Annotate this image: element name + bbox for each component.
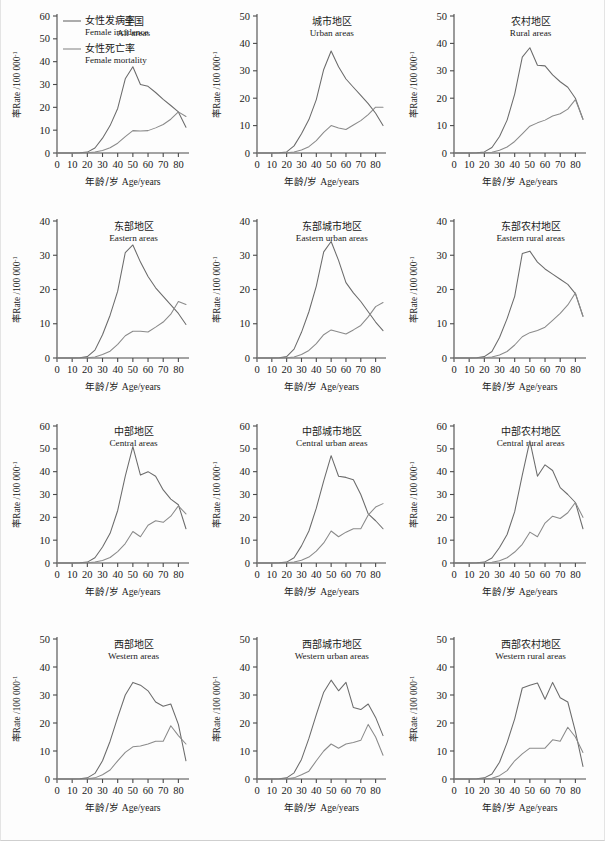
y-tick-label: 0 [45, 558, 50, 569]
series-line-mortality [257, 107, 383, 153]
y-tick-label: 30 [40, 489, 51, 500]
y-axis-title: 率Rate /100 000-1 [11, 51, 22, 118]
x-tick-label: 20 [82, 569, 93, 580]
panel-title-en: Central areas [109, 438, 158, 448]
x-tick-label: 10 [67, 569, 78, 580]
x-tick-label: 0 [54, 159, 59, 170]
y-tick-label: 60 [40, 421, 51, 432]
x-tick-label: 80 [570, 569, 581, 580]
y-axis-ticks: 0102030405060 [40, 421, 58, 569]
x-tick-label: 40 [509, 159, 520, 170]
x-tick-label: 0 [254, 785, 259, 796]
panel-title-cn: 中部农村地区 [501, 425, 561, 437]
x-tick-label: 70 [356, 569, 367, 580]
x-tick-label: 50 [326, 159, 337, 170]
x-tick-label: 20 [479, 785, 490, 796]
y-tick-label: 20 [437, 718, 448, 729]
panel-title-cn: 东部城市地区 [302, 220, 362, 232]
series-line-mortality [454, 100, 583, 153]
y-axis-ticks: 010203040 [437, 216, 455, 364]
panel-title-cn: 西部城市地区 [302, 638, 362, 650]
x-axis-title: 年龄/岁 Age/years [482, 802, 557, 813]
chart-panel-urban-areas: 0102030405001020304050607080率Rate /100 0… [201, 0, 398, 205]
y-axis-ticks: 01020304050 [437, 11, 455, 159]
x-tick-label: 60 [341, 159, 352, 170]
y-tick-label: 40 [240, 216, 251, 227]
x-tick-label: 20 [479, 364, 490, 375]
x-tick-label: 80 [173, 569, 184, 580]
x-tick-label: 10 [267, 569, 278, 580]
y-tick-label: 40 [40, 56, 51, 67]
svg-text:率Rate /100 000-1: 率Rate /100 000-1 [11, 676, 22, 743]
x-tick-label: 30 [494, 785, 505, 796]
x-tick-label: 50 [128, 159, 139, 170]
y-tick-label: 0 [245, 353, 250, 364]
y-tick-label: 20 [437, 93, 448, 104]
x-tick-label: 70 [158, 159, 169, 170]
x-tick-label: 80 [173, 159, 184, 170]
panel-grid: 010203040506001020304050607080率Rate /100… [1, 0, 605, 841]
y-axis-title: 率Rate /100 000-1 [11, 256, 22, 323]
x-tick-label: 30 [97, 569, 108, 580]
x-axis-title: 年龄/岁 Age/years [482, 176, 557, 187]
y-tick-label: 10 [437, 535, 448, 546]
y-axis-ticks: 010203040 [40, 216, 58, 364]
x-tick-label: 80 [570, 364, 581, 375]
chart-panel-western-rural-areas: 0102030405001020304050607080率Rate /100 0… [398, 615, 598, 837]
x-tick-label: 70 [158, 364, 169, 375]
y-tick-label: 0 [442, 558, 447, 569]
x-tick-label: 40 [311, 569, 322, 580]
y-tick-label: 50 [240, 443, 251, 454]
series-line-mortality [454, 293, 583, 358]
x-tick-label: 40 [112, 785, 123, 796]
y-axis-title: 率Rate /100 000-1 [211, 461, 222, 528]
x-tick-label: 60 [540, 159, 551, 170]
x-tick-label: 30 [296, 159, 307, 170]
x-tick-label: 20 [281, 159, 292, 170]
y-tick-label: 10 [40, 535, 51, 546]
x-tick-label: 0 [54, 364, 59, 375]
y-tick-label: 10 [40, 318, 51, 329]
panel-title-en: Eastern areas [109, 233, 158, 243]
x-tick-label: 40 [112, 159, 123, 170]
x-tick-label: 80 [173, 364, 184, 375]
x-axis-title: 年龄/岁 Age/years [85, 381, 160, 392]
x-tick-label: 80 [570, 159, 581, 170]
svg-text:率Rate /100 000-1: 率Rate /100 000-1 [408, 676, 419, 743]
x-axis-title: 年龄/岁 Age/years [482, 381, 557, 392]
y-tick-label: 10 [240, 535, 251, 546]
series-line-mortality [57, 506, 186, 563]
x-tick-label: 10 [464, 785, 475, 796]
y-tick-label: 30 [40, 690, 51, 701]
x-tick-label: 10 [67, 364, 78, 375]
x-tick-label: 50 [128, 364, 139, 375]
svg-text:率Rate /100 000-1: 率Rate /100 000-1 [408, 51, 419, 118]
x-tick-label: 70 [158, 569, 169, 580]
x-tick-label: 70 [356, 364, 367, 375]
x-tick-label: 50 [128, 785, 139, 796]
y-tick-label: 30 [437, 489, 448, 500]
y-tick-label: 20 [240, 284, 251, 295]
y-axis-title: 率Rate /100 000-1 [408, 461, 419, 528]
x-tick-label: 20 [479, 159, 490, 170]
y-tick-label: 0 [245, 148, 250, 159]
y-tick-label: 20 [40, 718, 51, 729]
x-tick-label: 30 [97, 364, 108, 375]
x-tick-label: 50 [128, 569, 139, 580]
y-tick-label: 30 [40, 250, 51, 261]
x-tick-label: 0 [451, 569, 456, 580]
y-tick-label: 0 [245, 774, 250, 785]
y-tick-label: 40 [40, 466, 51, 477]
y-axis-title: 率Rate /100 000-1 [11, 676, 22, 743]
x-tick-label: 30 [494, 569, 505, 580]
y-tick-label: 20 [240, 718, 251, 729]
x-axis-title: 年龄/岁 Age/years [284, 802, 359, 813]
y-tick-label: 10 [437, 318, 448, 329]
y-axis-title: 率Rate /100 000-1 [11, 461, 22, 528]
x-tick-label: 60 [341, 569, 352, 580]
x-tick-label: 40 [311, 364, 322, 375]
y-tick-label: 40 [437, 38, 448, 49]
x-tick-label: 70 [555, 159, 566, 170]
x-tick-label: 50 [525, 364, 536, 375]
x-tick-label: 40 [311, 159, 322, 170]
